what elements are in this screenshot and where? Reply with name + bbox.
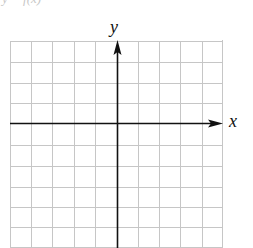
- coordinate-grid: [0, 0, 253, 248]
- grid-lines: [10, 40, 223, 248]
- x-axis-label: x: [229, 112, 237, 130]
- y-axis-label: y: [110, 18, 118, 36]
- x-axis: [10, 120, 223, 128]
- y-axis: [114, 40, 122, 248]
- coordinate-plane-figure: y = f(x): [0, 0, 253, 248]
